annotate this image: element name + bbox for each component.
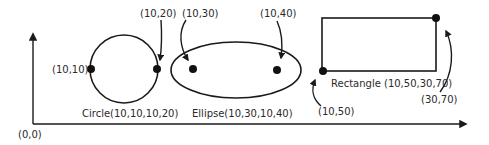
rectangle-caption: Rectangle (10,50,30,70) [331, 78, 452, 89]
ellipse-focus-right [273, 66, 281, 74]
ellipse-shape-group: (10,30) (10,40) Ellipse(10,30,10,40) [171, 8, 301, 119]
circle-caption: Circle(10,10,10,20) [82, 108, 178, 119]
rectangle-corner-bottom-left-arrow-icon [313, 80, 321, 106]
shapes-diagram: (0,0) (10,10) (10,20) Circle(10,10,10,20… [0, 0, 489, 145]
ellipse-focus-left [189, 65, 197, 73]
rectangle-corner-bottom-left [319, 67, 327, 75]
ellipse-focus-right-arrow-icon [277, 21, 282, 58]
origin-label: (0,0) [18, 129, 42, 140]
rectangle-corner-bottom-left-label: (10,50) [318, 106, 355, 117]
rectangle-shape [322, 18, 436, 71]
ellipse-focus-right-label: (10,40) [260, 8, 297, 19]
rectangle-corner-top-right [432, 14, 440, 22]
rectangle-corner-top-right-label: (30,70) [421, 94, 458, 105]
circle-point-right-arrow-icon [160, 20, 162, 60]
circle-point-left-label: (10,10) [52, 64, 89, 75]
circle-shape-group: (10,10) (10,20) Circle(10,10,10,20) [52, 8, 178, 119]
circle-point-right [153, 65, 161, 73]
ellipse-caption: Ellipse(10,30,10,40) [192, 108, 293, 119]
ellipse-focus-left-label: (10,30) [182, 8, 219, 19]
circle-shape [90, 35, 158, 103]
rectangle-shape-group: Rectangle (10,50,30,70) (10,50) (30,70) [313, 14, 458, 117]
circle-point-right-label: (10,20) [140, 8, 177, 19]
